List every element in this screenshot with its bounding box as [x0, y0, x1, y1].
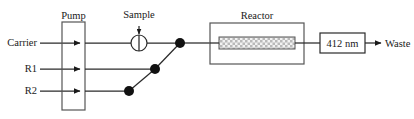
detector-label: 412 nm: [327, 38, 359, 49]
waste-label: Waste: [385, 38, 411, 49]
inlet-label-carrier: Carrier: [7, 37, 37, 48]
sample-label: Sample: [123, 9, 155, 20]
confluence-connector-r1-to-carrier: [155, 43, 180, 69]
sample-injection-valve: [131, 26, 147, 51]
pump-label: Pump: [61, 10, 86, 21]
inlet-label-reagent1: R1: [25, 63, 37, 74]
inlet-label-reagent2: R2: [25, 85, 37, 96]
merge-point-carrier: [175, 38, 185, 48]
flow-diagram-canvas: Carrier R1 R2 Pump Sample Reactor 412 nm…: [0, 0, 414, 119]
reactor-label: Reactor: [241, 10, 274, 21]
pump-box: [62, 22, 85, 110]
confluence-connector-r2-to-r1: [129, 69, 155, 91]
reactor-coil: [219, 37, 295, 49]
flow-diagram-root: Carrier R1 R2 Pump Sample Reactor 412 nm…: [0, 0, 414, 119]
merge-point-reagent2: [124, 86, 134, 96]
merge-point-reagent1: [150, 64, 160, 74]
